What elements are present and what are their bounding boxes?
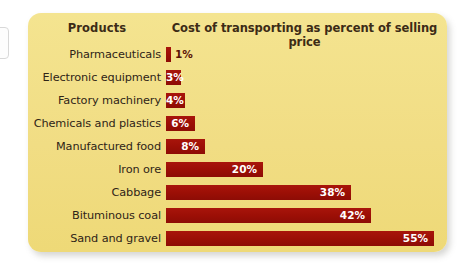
bar-rows: Pharmaceuticals1%Electronic equipment3%F… (28, 43, 447, 250)
bar-value-label: 4% (166, 93, 179, 108)
bar-row-label: Sand and gravel (28, 227, 161, 250)
bar-track: 42% (166, 204, 447, 227)
bar-track: 20% (166, 158, 447, 181)
bar-row: Chemicals and plastics6% (28, 112, 447, 135)
bar-track: 8% (166, 135, 447, 158)
chart-header: Products Cost of transporting as percent… (28, 21, 447, 41)
bar-row-label: Iron ore (28, 158, 161, 181)
bar-row-label: Manufactured food (28, 135, 161, 158)
bar-value-label: 8% (166, 139, 199, 154)
bar-track: 3% (166, 66, 447, 89)
bar-value-label: 38% (166, 185, 345, 200)
bar-track: 4% (166, 89, 447, 112)
bar-row-label: Factory machinery (28, 89, 161, 112)
bar-row: Manufactured food8% (28, 135, 447, 158)
bar (166, 47, 171, 62)
bar-value-label: 3% (166, 70, 175, 85)
bar-row: Pharmaceuticals1% (28, 43, 447, 66)
bar-row-label: Chemicals and plastics (28, 112, 161, 135)
bar-track: 6% (166, 112, 447, 135)
bar-row: Electronic equipment3% (28, 66, 447, 89)
bar-value-label: 20% (166, 162, 257, 177)
bar-value-label: 6% (166, 116, 189, 131)
chart-card: Products Cost of transporting as percent… (28, 13, 447, 252)
bar-row: Sand and gravel55% (28, 227, 447, 250)
bar-track: 55% (166, 227, 447, 250)
bar-value-label: 42% (166, 208, 365, 223)
bar-value-label: 55% (166, 231, 428, 246)
bar-row: Bituminous coal42% (28, 204, 447, 227)
bar-row-label: Pharmaceuticals (28, 43, 161, 66)
bar-row: Cabbage38% (28, 181, 447, 204)
cropped-edge-artifact (0, 27, 9, 59)
column-header-products: Products (28, 21, 166, 35)
bar-value-label: 1% (175, 47, 193, 62)
bar-row: Factory machinery4% (28, 89, 447, 112)
bar-row-label: Electronic equipment (28, 66, 161, 89)
bar-track: 1% (166, 43, 447, 66)
bar-track: 38% (166, 181, 447, 204)
bar-row-label: Bituminous coal (28, 204, 161, 227)
bar-row-label: Cabbage (28, 181, 161, 204)
bar-row: Iron ore20% (28, 158, 447, 181)
